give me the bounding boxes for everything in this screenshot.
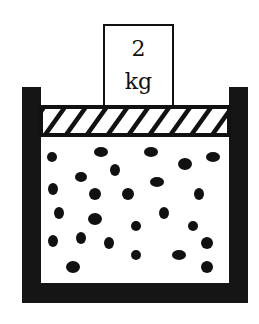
- gas-molecule: [47, 152, 57, 162]
- gas-molecule: [144, 147, 158, 157]
- gas-molecule: [89, 188, 101, 200]
- gas-molecule: [150, 177, 164, 187]
- gas-molecule: [178, 158, 192, 170]
- gas-molecule: [131, 250, 141, 260]
- weight-unit: kg: [125, 69, 152, 94]
- gas-molecule: [201, 237, 213, 249]
- weight-value: 2: [132, 36, 146, 61]
- gas-molecule: [188, 221, 198, 231]
- gas-molecule: [159, 207, 169, 219]
- weight-block: 2 kg: [104, 25, 173, 107]
- gas-molecule: [172, 250, 186, 260]
- gas-molecule: [194, 188, 204, 200]
- gas-molecule: [88, 213, 102, 225]
- gas-molecule: [110, 164, 120, 176]
- gas-molecule: [48, 235, 58, 247]
- gas-molecules: [47, 147, 220, 273]
- gas-molecule: [54, 207, 64, 219]
- gas-molecule: [122, 188, 134, 200]
- gas-molecule: [66, 261, 80, 273]
- cylinder-bottom: [22, 283, 248, 303]
- gas-molecule: [75, 172, 87, 182]
- gas-molecule: [104, 237, 114, 249]
- gas-molecule: [76, 232, 86, 244]
- gas-molecule: [48, 183, 58, 195]
- gas-molecule: [201, 261, 213, 273]
- piston-cylinder-diagram: 2 kg: [0, 0, 259, 324]
- cylinder-right-wall: [229, 87, 248, 303]
- hatch-line: [254, 107, 259, 135]
- gas-molecule: [94, 147, 108, 157]
- cylinder-left-wall: [22, 87, 41, 303]
- piston: [24, 107, 259, 135]
- gas-molecule: [131, 221, 141, 231]
- gas-molecule: [206, 152, 220, 162]
